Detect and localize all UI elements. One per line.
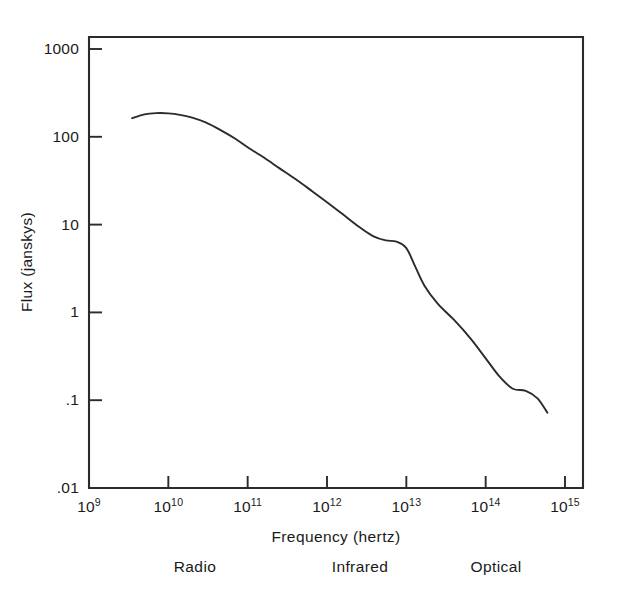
x-tick-label: 1011 — [233, 498, 262, 516]
plot-frame — [89, 37, 583, 488]
y-tick-label: .1 — [0, 391, 79, 409]
x-tick-label: 1013 — [391, 498, 421, 516]
y-tick-label: 1000 — [0, 40, 79, 58]
chart-figure: 1000100101.1.01 109101010111012101310141… — [0, 0, 623, 604]
y-tick-label: 10 — [0, 216, 79, 234]
band-label-optical: Optical — [470, 558, 521, 576]
y-tick-label: .01 — [0, 479, 79, 497]
x-tick-label: 1010 — [153, 498, 183, 516]
band-label-radio: Radio — [174, 558, 217, 576]
spectrum-curve — [132, 113, 547, 413]
x-tick-label: 1014 — [471, 498, 501, 516]
y-axis-title: Flux (janskys) — [18, 212, 36, 312]
band-label-infrared: Infrared — [332, 558, 389, 576]
y-tick-label: 1 — [0, 303, 79, 321]
y-tick-label: 100 — [0, 128, 79, 146]
x-tick-label: 1012 — [312, 498, 342, 516]
x-tick-label: 1015 — [550, 498, 580, 516]
x-axis-ticks — [168, 476, 565, 488]
x-axis-title: Frequency (hertz) — [271, 528, 400, 546]
x-tick-label: 109 — [77, 498, 101, 516]
y-axis-ticks — [89, 49, 102, 400]
